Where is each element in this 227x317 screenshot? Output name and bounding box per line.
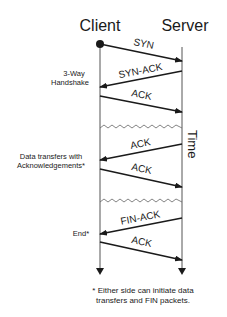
syn-ack-label: SYN-ACK: [117, 61, 163, 80]
handshake-label-line2: Handshake: [51, 78, 89, 87]
ack-label-4: ACK: [131, 234, 154, 249]
data-transfer-label-line1: Data transfers with: [20, 152, 83, 161]
client-lifeline-arrow-icon: [96, 268, 104, 275]
server-title: Server: [161, 17, 209, 34]
footnote-line2: transfers and FIN packets.: [96, 296, 190, 305]
time-label: Time: [185, 130, 200, 158]
end-label: End*: [73, 229, 89, 238]
ack-label-2: ACK: [129, 136, 152, 151]
ack-label-1: ACK: [131, 87, 154, 102]
data-transfer-label-line2: Acknowledgements*: [17, 161, 85, 170]
footnote-line1: * Either side can initiate data: [92, 286, 194, 295]
ack-label-3: ACK: [131, 161, 154, 176]
time-gap-zigzag-1: [100, 125, 182, 128]
tcp-sequence-diagram: Client Server SYN SYN-ACK ACK Time ACK A…: [0, 0, 227, 317]
server-lifeline-arrow-icon: [178, 268, 186, 275]
time-gap-zigzag-2: [100, 199, 182, 202]
handshake-label-line1: 3-Way: [63, 69, 85, 78]
syn-label: SYN: [133, 36, 155, 51]
client-title: Client: [80, 17, 121, 34]
